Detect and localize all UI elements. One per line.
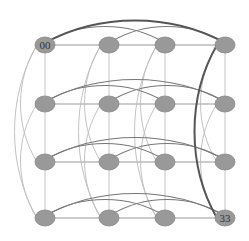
highlight-column-arc: [195, 45, 218, 218]
graph-node-01: [99, 37, 119, 53]
column-arc: [15, 45, 38, 218]
column-arc: [21, 45, 38, 162]
straight-edges: [45, 45, 225, 218]
graph-node-30: [35, 210, 55, 226]
row-arc: [45, 194, 225, 217]
graph-node-23: [215, 154, 235, 170]
grid-graph-diagram: 0033: [0, 0, 249, 241]
graph-node-21: [99, 154, 119, 170]
nodes: 0033: [35, 37, 235, 226]
graph-node-13: [215, 96, 235, 112]
graph-node-31: [99, 210, 119, 226]
column-arc: [135, 45, 158, 218]
node-label: 33: [220, 212, 232, 224]
column-arc: [79, 45, 102, 218]
graph-node-32: [155, 210, 175, 226]
graph-node-12: [155, 96, 175, 112]
graph-node-02: [155, 37, 175, 53]
graph-node-11: [99, 96, 119, 112]
node-label: 00: [40, 39, 52, 51]
graph-node-10: [35, 96, 55, 112]
graph-node-20: [35, 154, 55, 170]
graph-node-22: [155, 154, 175, 170]
highlight-row-arc: [45, 21, 225, 44]
graph-node-03: [215, 37, 235, 53]
